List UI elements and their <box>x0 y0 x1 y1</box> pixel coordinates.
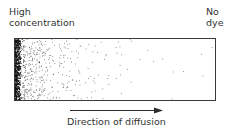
direction-caption: Direction of diffusion <box>67 116 166 127</box>
high-concentration-label: High concentration <box>9 6 75 28</box>
arrow-head-icon <box>154 108 163 114</box>
no-dye-line2: dye <box>206 17 224 28</box>
no-dye-line1: No <box>206 6 224 17</box>
no-dye-label: No dye <box>206 6 224 28</box>
high-concentration-line1: High <box>9 6 75 17</box>
dye-particles <box>15 39 212 101</box>
tube-container <box>15 39 216 101</box>
high-concentration-line2: concentration <box>9 17 75 28</box>
